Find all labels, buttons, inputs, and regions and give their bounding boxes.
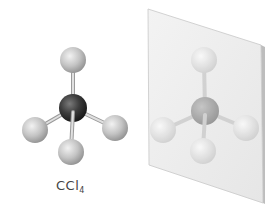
chlorine-atom-left [22, 117, 48, 143]
chlorine-atom-front [58, 139, 84, 165]
formula-text: CCl [56, 178, 79, 193]
chlorine-atom-top [60, 47, 86, 73]
chlorine-atom-right [102, 115, 128, 141]
ccl4-molecule [22, 47, 128, 165]
figure-canvas [0, 0, 276, 215]
molecule-formula-label: CCl4 [56, 178, 85, 195]
mirror-chlorine-atom-right [233, 115, 259, 141]
mirror-chlorine-atom-front [190, 138, 216, 164]
mirror-chlorine-atom-top [191, 47, 217, 73]
mirror-chlorine-atom-left [150, 117, 176, 143]
formula-subscript: 4 [79, 186, 85, 195]
